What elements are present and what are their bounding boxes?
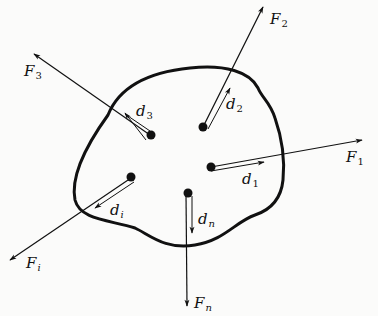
label-dn: dn xyxy=(198,212,215,229)
label-d3: d3 xyxy=(136,104,153,121)
rigid-body-outline xyxy=(74,67,283,246)
label-d1: d1 xyxy=(242,172,259,189)
label-F1: F1 xyxy=(346,150,364,167)
label-F3: F3 xyxy=(24,64,42,81)
label-F2: F2 xyxy=(270,12,288,29)
label-Fn: Fn xyxy=(194,296,212,313)
label-di: di xyxy=(110,203,124,220)
label-d2: d2 xyxy=(226,97,243,114)
label-Fi: Fi xyxy=(26,256,41,273)
force-F3 xyxy=(34,54,156,140)
rigid-body-diagram xyxy=(0,0,378,316)
